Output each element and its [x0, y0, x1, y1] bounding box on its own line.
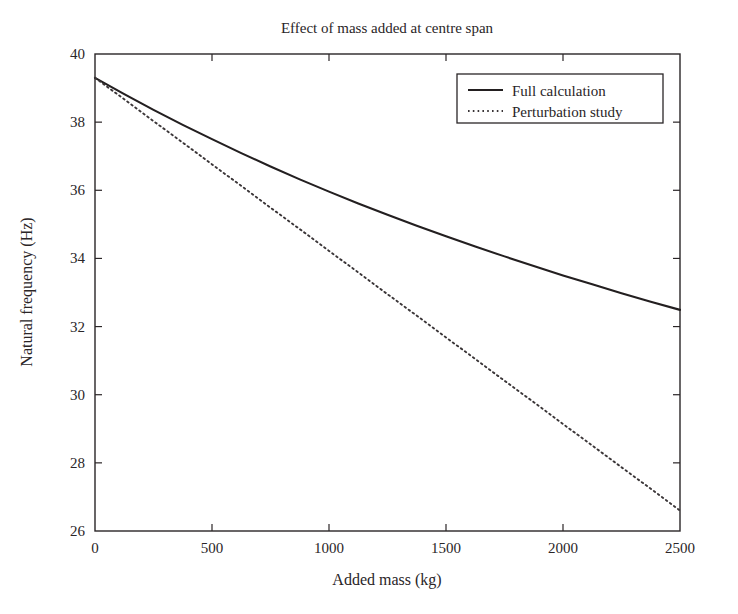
- x-tick-label: 2500: [665, 540, 695, 556]
- y-tick-label: 36: [70, 182, 86, 198]
- x-tick-label: 0: [91, 540, 99, 556]
- x-axis-ticks: [212, 54, 563, 531]
- y-axis-tick-labels: 2628303234363840: [70, 46, 86, 539]
- series-perturbation-study: [95, 78, 680, 511]
- y-axis-label: Natural frequency (Hz): [18, 217, 36, 366]
- y-axis-ticks: [95, 122, 680, 463]
- x-tick-label: 1500: [431, 540, 461, 556]
- y-tick-label: 30: [70, 387, 85, 403]
- y-tick-label: 40: [70, 46, 85, 62]
- x-axis-label: Added mass (kg): [332, 571, 441, 589]
- y-tick-label: 34: [70, 250, 86, 266]
- y-tick-label: 32: [70, 319, 85, 335]
- x-axis-tick-labels: 05001000150020002500: [91, 540, 695, 556]
- x-tick-label: 2000: [548, 540, 578, 556]
- y-tick-label: 26: [70, 523, 86, 539]
- figure-canvas: Effect of mass added at centre span 0500…: [0, 0, 738, 614]
- chart-legend: Full calculation Perturbation study: [457, 74, 663, 123]
- chart-title: Effect of mass added at centre span: [281, 20, 494, 36]
- y-tick-label: 38: [70, 114, 85, 130]
- data-series-layer: [95, 78, 680, 511]
- x-tick-label: 1000: [314, 540, 344, 556]
- y-tick-label: 28: [70, 455, 85, 471]
- x-tick-label: 500: [201, 540, 224, 556]
- legend-label-full-calculation: Full calculation: [512, 83, 606, 99]
- chart-plot: Effect of mass added at centre span 0500…: [0, 0, 738, 614]
- legend-label-perturbation-study: Perturbation study: [512, 104, 623, 120]
